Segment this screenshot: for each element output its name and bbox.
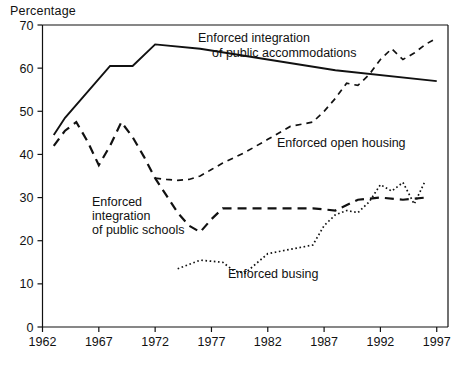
- axes: [43, 25, 449, 327]
- label-busing: Enforced busing: [228, 267, 318, 281]
- x-tick-label: 1992: [367, 335, 395, 349]
- y-tick-label: 0: [27, 321, 34, 335]
- x-tick-label: 1972: [141, 335, 169, 349]
- label-accommodations-line1: Enforced integration: [198, 31, 310, 45]
- x-tick-label: 1962: [29, 335, 57, 349]
- label-schools-line2: integration: [92, 209, 150, 223]
- y-tick-label: 60: [20, 62, 34, 76]
- x-tick-label: 1982: [254, 335, 282, 349]
- label-open-housing: Enforced open housing: [277, 136, 406, 150]
- x-tick-label: 1987: [310, 335, 338, 349]
- y-tick-label: 70: [20, 19, 34, 33]
- data-series-group: [54, 38, 437, 273]
- y-axis-ticks: 010203040506070: [20, 19, 43, 335]
- series-line-3: [178, 180, 426, 273]
- y-tick-label: 20: [20, 234, 34, 248]
- x-tick-label: 1997: [423, 335, 451, 349]
- chart-container: Percentage 010203040506070 1962196719721…: [0, 0, 459, 370]
- y-tick-label: 10: [20, 277, 34, 291]
- label-schools-line3: of public schools: [92, 223, 184, 237]
- label-schools-line1: Enforced: [92, 195, 142, 209]
- line-chart-plot: 010203040506070 196219671972197719821987…: [0, 0, 459, 370]
- x-tick-label: 1967: [85, 335, 113, 349]
- x-axis-ticks: 19621967197219771982198719921997: [29, 327, 451, 349]
- y-tick-label: 40: [20, 148, 34, 162]
- label-accommodations-line2: of public accommodations: [212, 46, 357, 60]
- y-tick-label: 50: [20, 105, 34, 119]
- x-tick-label: 1977: [198, 335, 226, 349]
- y-tick-label: 30: [20, 191, 34, 205]
- series-annotations: Enforced integration of public accommoda…: [92, 31, 406, 281]
